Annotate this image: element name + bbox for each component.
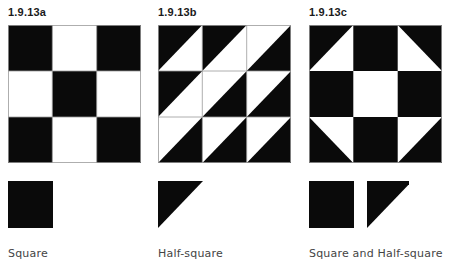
square-and-half-square-swatch-icon — [309, 181, 409, 228]
figure-a-label: 1.9.13a — [8, 6, 46, 18]
figure-c-label: 1.9.13c — [309, 6, 347, 18]
figure-a-caption: Square — [8, 247, 48, 260]
figure-b-legend-half-square — [158, 181, 204, 232]
half-square-swatch-icon — [158, 181, 204, 228]
figure-b-caption: Half-square — [158, 247, 223, 260]
half-square-pattern — [158, 25, 291, 163]
figure-c-caption: Square and Half-square — [309, 247, 443, 260]
figure-c-shoofly-grid — [309, 25, 442, 163]
figure-b-label: 1.9.13b — [158, 6, 197, 18]
square-swatch-icon — [8, 181, 54, 228]
figure-b-half-square-grid — [158, 25, 291, 163]
checkerboard-pattern — [8, 25, 141, 163]
figure-c-legend — [309, 181, 409, 232]
figure-a-square-grid — [8, 25, 141, 163]
shoofly-pattern — [309, 25, 442, 163]
figure-a-legend-square — [8, 181, 54, 232]
